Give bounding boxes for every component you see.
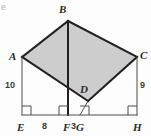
right-angle-H <box>128 106 137 115</box>
vertex-label-d: D <box>80 84 88 95</box>
measure-label-ef: 8 <box>42 122 47 131</box>
vertex-label-a: A <box>9 51 16 62</box>
vertex-label-c: C <box>140 50 147 61</box>
geometry-figure: e ABCDEFGH 10983 <box>0 0 151 136</box>
geometry-diagram-svg <box>0 0 151 136</box>
right-angle-E <box>22 106 31 115</box>
vertex-label-g: G <box>76 122 84 133</box>
segment-DG <box>80 101 88 115</box>
measure-label-ch: 9 <box>140 81 145 90</box>
measure-label-ae: 10 <box>5 81 15 90</box>
measure-label-fg: 3 <box>71 122 76 131</box>
right-angle-F <box>59 106 68 115</box>
right-angle-marks-layer <box>22 106 137 115</box>
vertex-label-b: B <box>59 4 66 15</box>
vertex-label-h: H <box>133 122 142 133</box>
vertex-label-f: F <box>63 122 70 133</box>
vertex-label-e: E <box>17 122 24 133</box>
